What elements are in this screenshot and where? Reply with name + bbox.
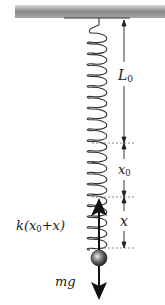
label-displacement: x (120, 214, 128, 228)
label-x-main: x (120, 213, 128, 229)
label-mg: mg (55, 274, 76, 289)
label-L: L (118, 67, 127, 83)
label-k-suffix: +x) (42, 218, 65, 233)
label-L-sub: 0 (127, 74, 133, 84)
weight-arrow (91, 262, 107, 300)
ceiling (15, 5, 165, 18)
spring-mass-diagram (0, 0, 165, 305)
label-natural-length: L0 (118, 68, 133, 84)
label-x0-sub: 0 (125, 168, 130, 178)
label-static-extension: x0 (118, 163, 131, 178)
label-k-prefix: k(x (16, 218, 36, 233)
label-weight: mg (55, 275, 76, 288)
label-spring-force: k(x0+x) (16, 219, 65, 234)
mass-ball (91, 250, 107, 266)
spring (87, 18, 107, 250)
